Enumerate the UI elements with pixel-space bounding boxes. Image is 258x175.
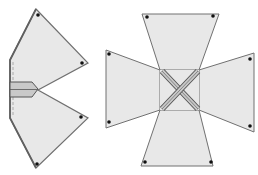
corner-dot [107, 52, 111, 56]
panel-top [142, 14, 219, 70]
corner-dot [211, 14, 215, 18]
panel-left [106, 50, 160, 128]
corner-dot [145, 15, 149, 19]
folded-net [10, 9, 88, 168]
panel-bottom [141, 110, 213, 166]
corner-dot [79, 115, 83, 119]
diagram-canvas [0, 0, 258, 175]
corner-dot [248, 124, 252, 128]
corner-dot [143, 160, 147, 164]
unfolded-net [106, 14, 254, 166]
corner-dot [209, 160, 213, 164]
corner-dot [107, 120, 111, 124]
panel-right [199, 53, 254, 132]
corner-dot [36, 13, 40, 17]
corner-dot [80, 61, 84, 65]
corner-dot [35, 162, 39, 166]
corner-dot [248, 57, 252, 61]
